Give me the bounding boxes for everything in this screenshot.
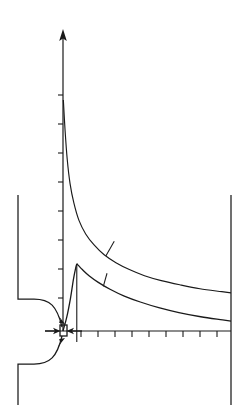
lower-curve-leader-tick <box>103 273 107 286</box>
upper-curve-leader-tick <box>106 241 114 256</box>
upper-curve <box>63 100 231 293</box>
nozzle-geometry <box>18 195 231 405</box>
nozzle-lower-wall <box>18 336 62 405</box>
lower-curve <box>63 264 231 331</box>
y-axis-ticks <box>58 95 63 298</box>
nozzle-upper-wall <box>18 195 62 327</box>
lower-curve-group <box>63 264 231 342</box>
technical-figure <box>0 0 251 419</box>
x-axis-ticks <box>81 331 217 337</box>
axes <box>45 29 231 337</box>
upper-curve-group <box>63 100 231 293</box>
figure-root <box>0 0 251 419</box>
